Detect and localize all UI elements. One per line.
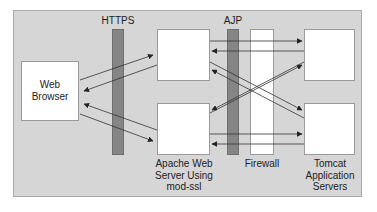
arrow-tomcat-top-to-apache-bottom — [212, 62, 304, 110]
arrow-apache-bottom-to-tomcat-top — [210, 65, 302, 113]
arrow-apache-bottom-to-browser — [84, 104, 157, 130]
arrow-browser-to-apache-top — [80, 55, 153, 80]
arrow-browser-to-apache-bottom — [80, 114, 153, 141]
arrow-apache-top-to-browser — [84, 65, 157, 91]
arrow-apache-top-to-tomcat-bottom — [210, 62, 302, 110]
connection-arrows — [0, 0, 377, 212]
arrow-tomcat-bottom-to-apache-top — [212, 70, 304, 118]
